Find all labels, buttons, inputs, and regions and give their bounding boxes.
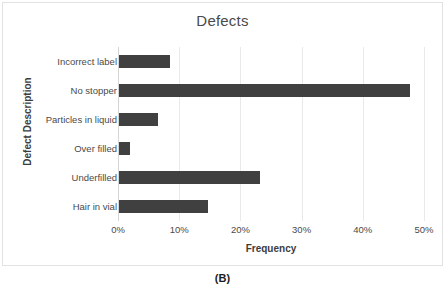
bar[interactable] — [119, 171, 260, 184]
x-axis-tick-labels: 0%10%20%30%40%50% — [118, 224, 424, 238]
x-axis-tick-label: 50% — [414, 224, 433, 235]
figure-caption: (B) — [0, 272, 445, 284]
y-axis-tick-label: No stopper — [33, 76, 117, 105]
y-axis-title: Defect Description — [22, 47, 33, 197]
plot-area — [118, 47, 424, 221]
y-axis-tick-label: Incorrect label — [33, 47, 117, 76]
bar[interactable] — [119, 55, 170, 68]
chart-title: Defects — [3, 12, 442, 29]
gridline — [424, 47, 425, 221]
bar-row — [118, 47, 424, 76]
x-axis-title: Frequency — [118, 243, 424, 254]
bar-row — [118, 134, 424, 163]
y-axis-tick-label: Over filled — [33, 134, 117, 163]
bar[interactable] — [119, 84, 410, 97]
y-axis-tick-label: Hair in vial — [33, 192, 117, 221]
bar-row — [118, 163, 424, 192]
y-axis-tick-label: Underfilled — [33, 163, 117, 192]
bar[interactable] — [119, 200, 208, 213]
bar[interactable] — [119, 142, 130, 155]
y-axis-tick-label: Particles in liquid — [33, 105, 117, 134]
y-axis-tick-labels: Incorrect label No stopper Particles in … — [33, 47, 117, 221]
x-axis-tick-label: 30% — [292, 224, 311, 235]
bar[interactable] — [119, 113, 158, 126]
bar-row — [118, 192, 424, 221]
x-axis-tick-label: 0% — [111, 224, 125, 235]
x-axis-tick-label: 20% — [231, 224, 250, 235]
bar-row — [118, 76, 424, 105]
bar-row — [118, 105, 424, 134]
bar-series — [118, 47, 424, 221]
chart-frame: Defects Defect Description Incorrect lab… — [2, 2, 443, 266]
x-axis-tick-label: 40% — [353, 224, 372, 235]
x-axis-tick-label: 10% — [170, 224, 189, 235]
figure-container: Defects Defect Description Incorrect lab… — [0, 0, 445, 296]
